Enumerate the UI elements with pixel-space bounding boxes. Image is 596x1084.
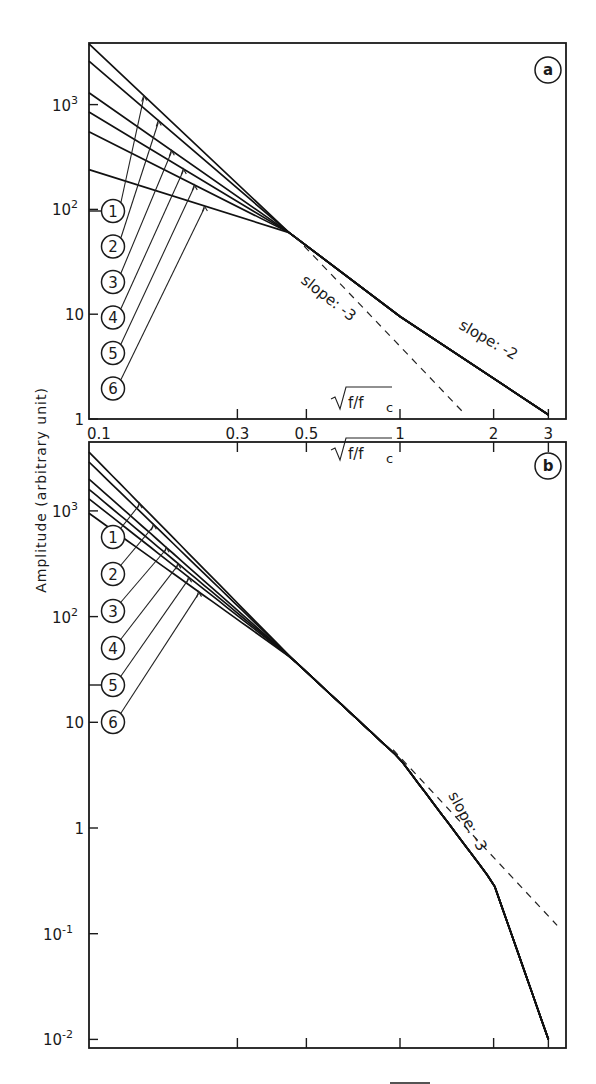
series-curve-5 [89, 132, 548, 415]
y-tick-label: 10 [65, 306, 84, 324]
x-tick-label: 0.3 [225, 425, 249, 443]
legend-label: 1 [108, 529, 118, 547]
y-tick-label: 102 [52, 198, 78, 219]
legend-label: 3 [108, 274, 118, 292]
svg-text:f/f: f/f [348, 394, 364, 412]
legend-leader-line [121, 171, 183, 309]
figure: Amplitude (arbitrary unit) 0.10.30.51231… [0, 0, 596, 1084]
panel-label: b [543, 457, 554, 475]
legend-label: 6 [108, 380, 118, 398]
plot-frame [89, 442, 566, 1048]
slope-annotation: slope: -2 [456, 316, 521, 364]
legend-label: 5 [108, 677, 118, 695]
series-curve-4 [89, 489, 548, 1039]
y-tick-label: 102 [52, 606, 78, 627]
legend-label: 4 [108, 640, 118, 658]
slope-annotation: slope: -3 [444, 788, 490, 854]
x-tick-label: 1 [395, 425, 405, 443]
legend-leader-line [121, 565, 178, 639]
legend-label: 5 [108, 345, 118, 363]
y-tick-label: 10-2 [43, 1028, 73, 1049]
y-tick-label: 103 [52, 500, 78, 521]
series-curve-2 [89, 61, 548, 415]
arrowhead-icon [151, 524, 156, 530]
series-curve-3 [89, 93, 548, 415]
legend-label: 4 [108, 309, 118, 327]
series-curve-6 [89, 513, 548, 1039]
legend-label: 2 [108, 566, 118, 584]
y-tick-label: 1 [74, 411, 84, 429]
legend-leader-line [121, 208, 204, 380]
x-axis-label: f/fc [331, 387, 393, 415]
legend-label: 2 [108, 238, 118, 256]
y-tick-label: 10-1 [43, 923, 73, 944]
x-tick-label: 3 [544, 425, 554, 443]
plot-frame [89, 43, 566, 419]
x-tick-label: 0.5 [294, 425, 318, 443]
series-curve-1 [89, 44, 548, 415]
legend-leader-line [121, 594, 199, 713]
svg-text:c: c [386, 400, 393, 415]
x-tick-label: 2 [489, 425, 499, 443]
series-curve-2 [89, 462, 548, 1039]
y-axis-label: Amplitude (arbitrary unit) [33, 387, 49, 593]
legend-label: 1 [108, 203, 118, 221]
panel-label: a [543, 61, 553, 79]
x-tick-label: 0.1 [87, 425, 111, 443]
svg-text:f/f: f/f [348, 445, 364, 463]
legend-label: 3 [108, 603, 118, 621]
legend-label: 6 [108, 714, 118, 732]
arrowhead-icon [142, 96, 147, 102]
y-tick-label: 103 [52, 94, 78, 115]
slope-reference-line [295, 237, 463, 413]
arrowhead-icon [137, 503, 142, 509]
legend-leader-line [121, 122, 158, 237]
panel-a: 0.10.30.5123110102103aslope: -3slope: -2… [52, 43, 566, 466]
y-tick-label: 10 [65, 714, 84, 732]
series-curve-5 [89, 499, 548, 1040]
svg-text:c: c [386, 451, 393, 466]
panel-b: 10-210-1110102103bslope: -3123456 [43, 442, 566, 1083]
legend-leader-line [121, 187, 194, 344]
y-tick-label: 1 [74, 820, 84, 838]
